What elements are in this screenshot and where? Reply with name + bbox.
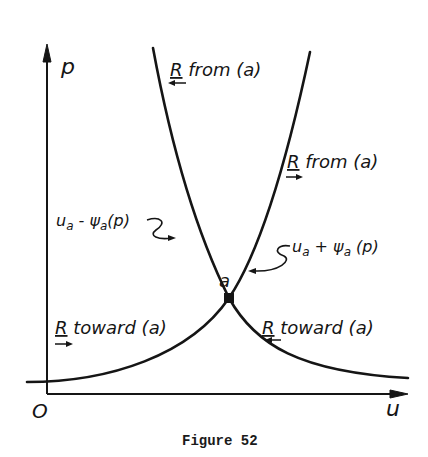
- curve-label-right: ua + ψa (p): [248, 237, 379, 274]
- point-a-label: a: [219, 270, 230, 291]
- curve-label-left: ua - ψa(p): [56, 211, 176, 241]
- u-axis-label: u: [386, 396, 400, 421]
- label-minus-psi: - ψ: [74, 211, 101, 230]
- label-sub-a2: a: [344, 245, 351, 259]
- pointer-arrow-left-icon: [168, 235, 176, 241]
- annotation-top-r-from-a: R from (a): [168, 59, 261, 86]
- label-u: u: [56, 211, 66, 230]
- r-symbol: R: [170, 59, 183, 80]
- r-symbol: R: [262, 317, 275, 338]
- r-symbol: R: [55, 317, 68, 338]
- annotation-text: toward (a): [275, 317, 374, 338]
- annotation-left-r-toward-a: R toward (a): [55, 317, 167, 347]
- figure-caption: Figure 52: [182, 433, 258, 449]
- label-plus-psi: + ψ: [310, 237, 345, 256]
- annotation-right-r-from-a: R from (a): [286, 151, 378, 180]
- figure-52-diagram: p u O a ua - ψa(p) ua + ψa (p) R from (a…: [0, 0, 428, 457]
- arrow-left-head-icon: [168, 80, 175, 86]
- pointer-arrow-right-icon: [248, 268, 256, 274]
- annotation-text: from (a): [300, 151, 379, 172]
- arrow-right-head-icon: [66, 341, 73, 347]
- annotation-bottom-right-text: R toward (a): [262, 317, 374, 338]
- origin-label: O: [32, 399, 48, 423]
- annotation-top-text: R from (a): [170, 59, 261, 80]
- r-symbol: R: [287, 151, 300, 172]
- pointer-squiggle-right-icon: [254, 246, 290, 271]
- p-axis-arrow-icon: [43, 44, 51, 62]
- annotation-bottom-left-text: R toward (a): [55, 317, 167, 338]
- p-axis-label: p: [60, 54, 75, 79]
- annotation-right-r-toward-a: R toward (a): [262, 317, 374, 343]
- annotation-text: toward (a): [68, 317, 167, 338]
- point-a-marker: [224, 293, 234, 303]
- label-arg: (p): [351, 237, 379, 256]
- label-sub-a: a: [302, 245, 309, 259]
- annotation-text: from (a): [183, 59, 262, 80]
- label-sub-a: a: [66, 219, 73, 233]
- annotation-right-text: R from (a): [287, 151, 378, 172]
- label-arg: (p): [107, 211, 130, 230]
- arrow-right-head-icon: [296, 174, 303, 180]
- label-u: u: [292, 237, 302, 256]
- label-sub-a2: a: [100, 219, 107, 233]
- curve-label-left-text: ua - ψa(p): [56, 211, 130, 233]
- curve-label-right-text: ua + ψa (p): [292, 237, 379, 259]
